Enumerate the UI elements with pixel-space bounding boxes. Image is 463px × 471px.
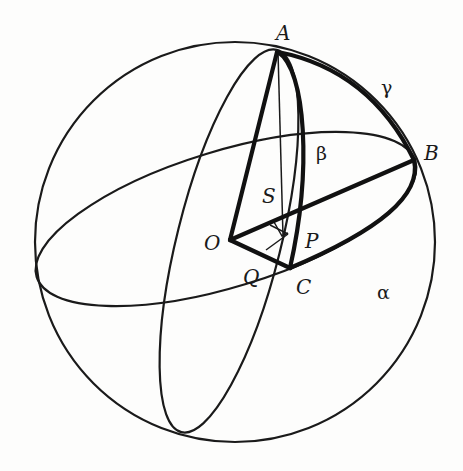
diagram-canvas: A B C O P Q S α β γ — [0, 0, 463, 471]
radius-OB — [230, 160, 414, 240]
label-P: P — [304, 229, 319, 253]
equator-great-circle — [17, 96, 435, 342]
label-beta: β — [316, 142, 327, 164]
label-S: S — [262, 184, 276, 208]
label-B: B — [423, 141, 439, 165]
construction-line-PQ — [266, 234, 288, 250]
label-A: A — [274, 21, 290, 45]
label-C: C — [296, 275, 311, 299]
label-alpha: α — [377, 281, 390, 303]
label-Q: Q — [243, 265, 259, 289]
label-gamma: γ — [381, 76, 392, 98]
label-O: O — [204, 231, 220, 255]
spherical-triangle-diagram: A B C O P Q S α β γ — [0, 0, 463, 471]
perpendicular-line-AP — [278, 52, 283, 236]
